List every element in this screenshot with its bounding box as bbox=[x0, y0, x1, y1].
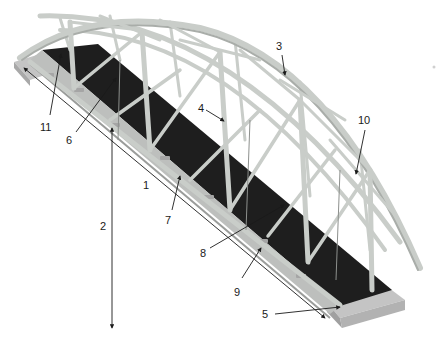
callout-4: 4 bbox=[198, 102, 224, 121]
svg-text:11: 11 bbox=[40, 121, 51, 133]
bridge-deck bbox=[30, 44, 392, 318]
svg-text:7: 7 bbox=[165, 214, 171, 226]
callout-1: 1 bbox=[24, 68, 325, 318]
svg-text:3: 3 bbox=[276, 40, 282, 52]
svg-text:5: 5 bbox=[262, 308, 268, 320]
svg-text:1: 1 bbox=[143, 179, 149, 191]
svg-text:8: 8 bbox=[200, 247, 206, 259]
svg-text:4: 4 bbox=[198, 102, 204, 114]
svg-text:9: 9 bbox=[234, 286, 240, 298]
bridge-diagram: 1 2 3 4 5 6 7 bbox=[0, 0, 443, 352]
callout-2: 2 bbox=[100, 128, 112, 328]
speck bbox=[433, 66, 436, 69]
svg-text:6: 6 bbox=[66, 134, 72, 146]
svg-text:2: 2 bbox=[100, 220, 106, 232]
svg-text:10: 10 bbox=[358, 114, 370, 126]
